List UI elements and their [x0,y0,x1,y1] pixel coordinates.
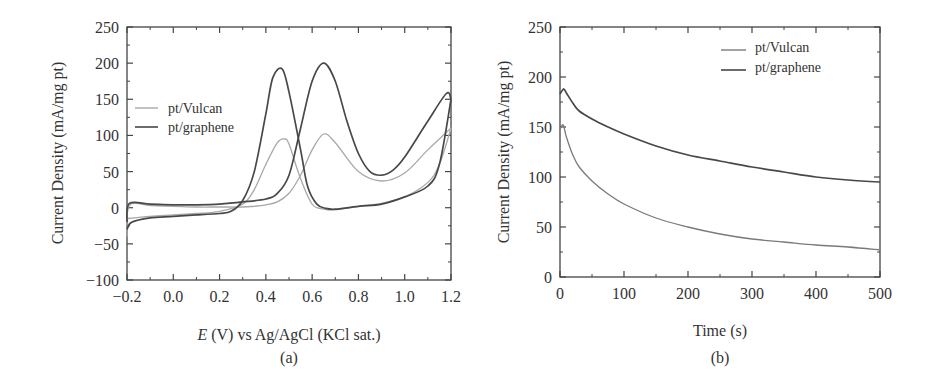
x-tick-label: 0.0 [163,288,183,305]
x-tick-label: 500 [868,285,892,302]
y-tick-label: 0 [111,200,119,217]
panel-a-chart: −0.20.00.20.40.60.81.01.2250200150100500… [49,19,461,367]
y-tick-label: 200 [95,55,119,72]
legend-label-pt-graphene: pt/graphene [168,120,234,135]
x-tick-label: 0 [556,285,564,302]
x-tick-label: 1.0 [395,288,415,305]
y-tick-label: 250 [528,19,552,36]
x-tick-label: 100 [612,285,636,302]
figure: −0.20.00.20.40.60.81.01.2250200150100500… [0,0,933,390]
y-tick-label: −100 [86,272,119,289]
y-tick-label: 50 [536,219,552,236]
x-tick-label: 1.2 [441,288,461,305]
legend-label-pt-vulcan: pt/Vulcan [755,40,809,55]
panel-b-x-axis-title: Time (s) [693,322,747,340]
x-tick-label: 0.6 [302,288,322,305]
panel-a-x-axis-title: E (V) vs Ag/AgCl (KCl sat.) [196,326,380,344]
panel-a-caption: (a) [280,349,298,367]
y-tick-label: 100 [528,169,552,186]
panel-b-legend: pt/Vulcan pt/graphene [721,40,821,75]
x-tick-label: 200 [676,285,700,302]
panel-b-plot-frame [560,27,880,277]
panel-b-y-axis-title: Current Density (mA/mg pt) [495,61,513,244]
x-tick-label: 0.8 [348,288,368,305]
panel-b-series [560,89,880,250]
y-tick-label: −50 [94,236,119,253]
x-tick-label: 300 [740,285,764,302]
x-tick-label: −0.2 [112,288,141,305]
panel-a-plot-frame [127,27,451,280]
panel-b-chart: 0100200300400500250200150100500 pt/Vulca… [495,19,892,367]
y-tick-label: 200 [528,69,552,86]
panel-a-series [127,63,451,237]
x-tick-label: 0.4 [256,288,276,305]
y-tick-label: 150 [95,91,119,108]
y-tick-label: 250 [95,19,119,36]
panel-a-legend: pt/Vulcan pt/graphene [135,101,234,135]
panel-a-ticks: −0.20.00.20.40.60.81.01.2250200150100500… [86,19,461,305]
y-tick-label: 150 [528,119,552,136]
legend-label-pt-graphene: pt/graphene [755,60,821,75]
panel-b-caption: (b) [711,349,730,367]
series-line-pt-vulcan [560,125,880,250]
legend-label-pt-vulcan: pt/Vulcan [168,101,222,116]
series-line-pt-graphene [560,89,880,182]
panel-b-ticks: 0100200300400500250200150100500 [528,19,892,302]
x-tick-label: 400 [804,285,828,302]
y-tick-label: 100 [95,127,119,144]
x-tick-label: 0.2 [210,288,230,305]
y-tick-label: 0 [544,269,552,286]
panel-a-y-axis-title: Current Density (mA/mg pt) [49,62,67,245]
y-tick-label: 50 [103,164,119,181]
